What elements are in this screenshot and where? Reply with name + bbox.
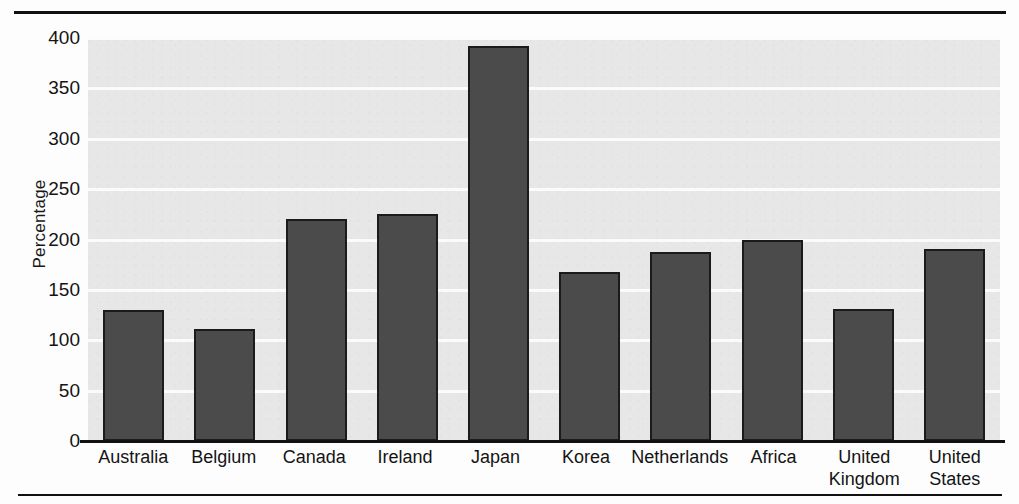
bar-series (88, 38, 1000, 441)
bar-ireland[interactable] (377, 214, 438, 441)
x-label-canada: Canada (269, 446, 360, 490)
bar-cell-united-kingdom (818, 38, 909, 441)
x-label-line: Kingdom (819, 468, 910, 490)
bar-cell-ireland (362, 38, 453, 441)
bar-belgium[interactable] (194, 329, 255, 441)
y-axis-tick-350: 350 (48, 77, 80, 99)
x-label-australia: Australia (88, 446, 179, 490)
x-label-africa: Africa (728, 446, 819, 490)
x-label-line: United (819, 446, 910, 468)
figure-bottom-rule (18, 494, 1002, 496)
x-label-ireland: Ireland (360, 446, 451, 490)
y-axis-tick-400: 400 (48, 27, 80, 49)
x-axis-line (80, 440, 1005, 443)
x-label-line: Canada (269, 446, 360, 468)
bar-korea[interactable] (559, 272, 620, 441)
y-axis-tick-labels: 050100150200250300350400 (22, 38, 80, 441)
y-axis-tick-50: 50 (59, 380, 80, 402)
bar-united-states[interactable] (924, 249, 985, 441)
x-label-japan: Japan (450, 446, 541, 490)
x-label-united-states: UnitedStates (909, 446, 1000, 490)
y-axis-tick-100: 100 (48, 329, 80, 351)
x-label-line: Belgium (179, 446, 270, 468)
bar-japan[interactable] (468, 46, 529, 441)
x-axis-category-labels: AustraliaBelgiumCanadaIrelandJapanKoreaN… (88, 446, 1000, 490)
x-label-line: Netherlands (631, 446, 728, 468)
bar-cell-belgium (179, 38, 270, 441)
y-axis-tick-200: 200 (48, 229, 80, 251)
x-label-belgium: Belgium (179, 446, 270, 490)
bar-united-kingdom[interactable] (833, 309, 894, 441)
bar-canada[interactable] (286, 219, 347, 441)
y-axis-tick-300: 300 (48, 128, 80, 150)
y-axis-tick-150: 150 (48, 279, 80, 301)
x-label-netherlands: Netherlands (631, 446, 728, 490)
x-label-line: Korea (541, 446, 632, 468)
x-label-line: Africa (728, 446, 819, 468)
bar-cell-korea (544, 38, 635, 441)
x-label-line: United (909, 446, 1000, 468)
x-label-line: Ireland (360, 446, 451, 468)
bar-cell-africa (726, 38, 817, 441)
x-label-line: States (909, 468, 1000, 490)
bar-africa[interactable] (742, 240, 803, 442)
bar-cell-united-states (909, 38, 1000, 441)
x-label-korea: Korea (541, 446, 632, 490)
bar-netherlands[interactable] (650, 252, 711, 441)
bar-chart-figure: Percentage 050100150200250300350400 Aust… (0, 0, 1019, 504)
y-axis-tick-0: 0 (69, 430, 80, 452)
x-label-line: Japan (450, 446, 541, 468)
figure-top-rule (14, 11, 1006, 14)
bar-cell-canada (270, 38, 361, 441)
x-label-united-kingdom: UnitedKingdom (819, 446, 910, 490)
y-axis-tick-250: 250 (48, 178, 80, 200)
bar-cell-netherlands (635, 38, 726, 441)
bar-cell-australia (88, 38, 179, 441)
bar-australia[interactable] (103, 310, 164, 441)
x-label-line: Australia (88, 446, 179, 468)
bar-cell-japan (453, 38, 544, 441)
